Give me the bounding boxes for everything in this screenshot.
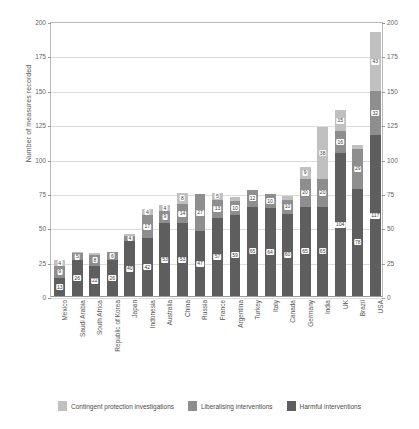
bar-segment-contingent[interactable]: 3 (230, 197, 241, 201)
bar-segment-liberalising[interactable]: 9 (159, 211, 170, 223)
bar-segment-liberalising[interactable]: 10 (282, 200, 293, 214)
bar-segment-contingent[interactable]: 5 (212, 193, 223, 200)
bar-segment-harmful[interactable]: 78 (352, 189, 363, 296)
gridline (51, 298, 382, 299)
bar-segment-harmful[interactable]: 57 (212, 218, 223, 296)
bar-column[interactable]: 1041615 (335, 110, 346, 296)
bar-segment-harmful[interactable]: 65 (300, 207, 311, 296)
bar-segment-liberalising[interactable]: 20 (300, 179, 311, 207)
bar-column[interactable]: 6512 (247, 190, 258, 296)
bar-segment-contingent[interactable]: 9 (300, 167, 311, 179)
bar-segment-contingent[interactable]: 1 (72, 252, 83, 253)
x-axis-category-label: Russia (201, 300, 208, 320)
bar-column[interactable]: 652038 (317, 127, 328, 296)
axis-tick-mark (382, 264, 385, 265)
bar-segment-contingent[interactable]: 4 (159, 205, 170, 211)
bar-segment-contingent[interactable]: 1 (89, 253, 100, 254)
bar-segment-liberalising[interactable]: 6 (107, 252, 118, 260)
bar-segment-harmful[interactable]: 104 (335, 153, 346, 296)
y-axis-right-tick-label: 50 (387, 225, 394, 232)
bar-value-label: 14 (179, 211, 187, 217)
bar-segment-liberalising[interactable]: 8 (89, 255, 100, 266)
bar-value-label: 57 (214, 254, 222, 260)
legend-item[interactable]: Harmful interventions (287, 401, 361, 411)
bar-segment-liberalising[interactable]: 16 (335, 131, 346, 153)
bar-column[interactable]: 266 (107, 252, 118, 296)
bar-segment-harmful[interactable]: 22 (89, 266, 100, 296)
bar-segment-harmful[interactable]: 53 (177, 223, 188, 296)
bar-segment-contingent[interactable]: 4 (142, 209, 153, 215)
bar-segment-liberalising[interactable]: 10 (230, 201, 241, 215)
bar-segment-harmful[interactable]: 42 (142, 238, 153, 296)
bar-value-label: 4 (163, 205, 168, 211)
bar-column[interactable]: 78293 (352, 145, 363, 296)
bar-segment-harmful[interactable]: 26 (72, 260, 83, 296)
bar-segment-liberalising[interactable]: 4 (124, 236, 135, 242)
bar-segment-contingent[interactable]: 3 (282, 196, 293, 200)
bar-column[interactable]: 1394 (54, 260, 65, 296)
y-axis-right-tick-label: 25 (387, 260, 394, 267)
bar-column[interactable]: 2281 (89, 253, 100, 296)
bar-segment-liberalising[interactable]: 14 (177, 204, 188, 223)
x-axis-category-label: Japan (131, 300, 138, 318)
bar-value-label: 4 (57, 260, 62, 266)
bar-value-label: 9 (57, 269, 62, 275)
x-axis-category-label: China (184, 300, 191, 317)
bar-segment-harmful[interactable]: 64 (265, 208, 276, 296)
bar-column[interactable]: 57135 (212, 193, 223, 296)
bar-segment-contingent[interactable]: 1 (124, 234, 135, 235)
bar-column[interactable]: 2651 (72, 252, 83, 296)
bar-value-label: 27 (196, 210, 204, 216)
bar-segment-liberalising[interactable]: 29 (352, 149, 363, 189)
legend-item[interactable]: Liberalising interventions (188, 401, 273, 411)
axis-tick-mark (382, 57, 385, 58)
bar-segment-contingent[interactable]: 43 (370, 32, 381, 91)
x-axis-category-label: Mexico (61, 300, 68, 321)
bar-column[interactable]: 6410 (265, 194, 276, 296)
legend-item[interactable]: Contingent protection investigations (58, 401, 174, 411)
bar-segment-liberalising[interactable]: 13 (212, 200, 223, 218)
bar-segment-harmful[interactable]: 26 (107, 260, 118, 296)
bar-column[interactable]: 59103 (230, 197, 241, 296)
bar-segment-harmful[interactable]: 53 (159, 223, 170, 296)
bar-segment-harmful[interactable]: 40 (124, 241, 135, 296)
bar-column[interactable]: 1173243 (370, 32, 381, 296)
bar-segment-harmful[interactable]: 60 (282, 214, 293, 297)
bar-segment-contingent[interactable]: 8 (177, 193, 188, 204)
bar-segment-liberalising[interactable]: 17 (142, 215, 153, 238)
bar-segment-harmful[interactable]: 65 (247, 207, 258, 296)
y-axis-right-tick-label: 100 (387, 157, 398, 164)
bar-segment-liberalising[interactable]: 12 (247, 190, 258, 207)
axis-tick-mark (382, 126, 385, 127)
bar-segment-liberalising[interactable]: 9 (54, 266, 65, 278)
x-axis-category-label: Germany (307, 300, 314, 327)
bar-column[interactable]: 4727 (195, 194, 206, 296)
y-axis-tick-label: 100 (35, 157, 46, 164)
bar-column[interactable]: 4041 (124, 234, 135, 296)
bar-column[interactable]: 65209 (300, 167, 311, 296)
bar-column[interactable]: 5394 (159, 205, 170, 296)
bar-segment-contingent[interactable]: 4 (54, 260, 65, 266)
bar-segment-harmful[interactable]: 59 (230, 215, 241, 296)
bar-segment-harmful[interactable]: 47 (195, 231, 206, 296)
axis-tick-mark (382, 229, 385, 230)
bar-value-label: 12 (249, 195, 257, 201)
bar-segment-harmful[interactable]: 65 (317, 207, 328, 296)
bar-column[interactable]: 53148 (177, 193, 188, 296)
y-axis-right-tick-label: 0 (387, 294, 391, 301)
bar-value-label: 32 (371, 110, 379, 116)
bar-segment-liberalising[interactable]: 10 (265, 194, 276, 208)
bar-segment-liberalising[interactable]: 32 (370, 91, 381, 135)
bar-segment-harmful[interactable]: 117 (370, 135, 381, 296)
bar-segment-contingent[interactable]: 3 (352, 145, 363, 149)
bar-segment-contingent[interactable]: 15 (335, 110, 346, 131)
bar-segment-harmful[interactable]: 13 (54, 278, 65, 296)
x-axis-category-label: Brazil (359, 300, 366, 316)
bar-segment-liberalising[interactable]: 5 (72, 253, 83, 260)
bar-value-label: 40 (126, 266, 134, 272)
bar-segment-liberalising[interactable]: 20 (317, 179, 328, 207)
bar-column[interactable]: 42174 (142, 209, 153, 296)
bar-segment-contingent[interactable]: 38 (317, 127, 328, 179)
bar-column[interactable]: 60103 (282, 196, 293, 296)
bar-segment-liberalising[interactable]: 27 (195, 194, 206, 231)
